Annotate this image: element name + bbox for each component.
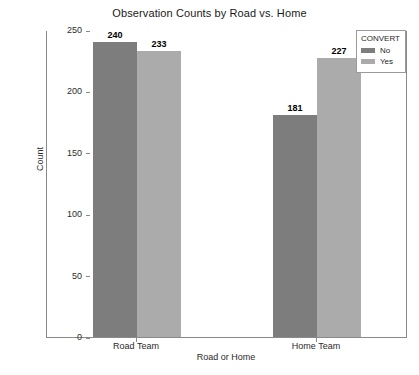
y-tick-mark <box>86 215 90 216</box>
legend-item-yes[interactable]: Yes <box>361 57 402 66</box>
y-axis-label: Count <box>35 147 45 171</box>
bar-chart: Observation Counts by Road vs. Home Coun… <box>0 0 419 375</box>
y-tick-label: 200 <box>47 86 82 96</box>
y-tick-mark <box>86 276 90 277</box>
legend: CONVERT NoYes <box>356 30 406 73</box>
bar-road-team-yes <box>137 51 181 337</box>
legend-title: CONVERT <box>361 34 402 43</box>
legend-swatch-icon <box>361 59 375 64</box>
legend-swatch-icon <box>361 48 375 53</box>
y-tick-mark <box>86 92 90 93</box>
x-tick-mark <box>136 338 137 342</box>
legend-label: Yes <box>380 57 393 66</box>
y-tick-label: 100 <box>47 209 82 219</box>
bar-value-label: 181 <box>265 103 325 113</box>
bar-home-team-no <box>273 115 317 337</box>
y-tick-label: 150 <box>47 148 82 158</box>
plot-area: Count 050100150200250 240233181227 <box>46 31 406 338</box>
y-tick-label: 250 <box>47 25 82 35</box>
legend-entries: NoYes <box>361 46 402 66</box>
bar-road-team-no <box>93 42 137 337</box>
y-tick-label: 50 <box>47 271 82 281</box>
x-axis-label: Road or Home <box>46 352 406 362</box>
y-tick-mark <box>86 153 90 154</box>
bar-value-label: 233 <box>129 39 189 49</box>
legend-label: No <box>380 46 390 55</box>
legend-item-no[interactable]: No <box>361 46 402 55</box>
y-tick-mark <box>86 338 90 339</box>
x-category-label: Road Team <box>86 341 186 351</box>
x-category-label: Home Team <box>266 341 366 351</box>
bar-home-team-yes <box>317 58 361 337</box>
y-tick-label: 0 <box>47 332 82 342</box>
x-tick-mark <box>316 338 317 342</box>
chart-title: Observation Counts by Road vs. Home <box>0 7 419 19</box>
